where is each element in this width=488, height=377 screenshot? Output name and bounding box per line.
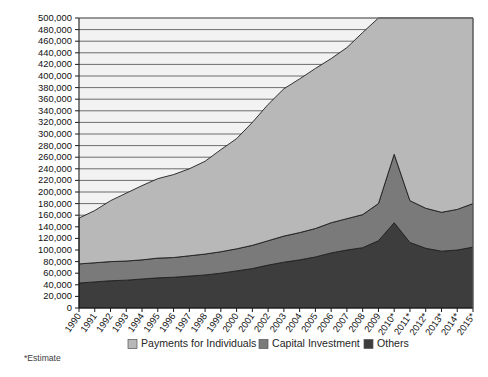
legend-swatch-icon <box>128 340 137 349</box>
legend-label: Others <box>377 337 409 349</box>
legend-item-capital-investment[interactable]: Capital Investment <box>259 337 360 349</box>
x-axis-tick-label: 2008 <box>346 311 367 334</box>
y-axis-ticks <box>75 18 79 308</box>
y-axis-tick-label: 260,000 <box>38 151 72 162</box>
y-axis-tick-label: 160,000 <box>38 209 72 220</box>
y-axis-tick-label: 480,000 <box>38 24 72 35</box>
x-axis-tick-label: 1995 <box>141 311 162 334</box>
x-axis-ticks <box>79 308 473 312</box>
x-axis-tick-label: 2000 <box>220 311 241 334</box>
legend-item-others[interactable]: Others <box>364 337 409 349</box>
x-axis-tick-label: 1999 <box>204 311 225 334</box>
x-axis-tick-label: 2001 <box>236 311 257 334</box>
y-axis-tick-label: 500,000 <box>38 12 72 23</box>
y-axis-tick-label: 140,000 <box>38 221 72 232</box>
x-axis-tick-label: 1992 <box>94 311 115 334</box>
x-axis-tick-label: 1998 <box>188 311 209 334</box>
y-axis-tick-label: 300,000 <box>38 128 72 139</box>
legend-label: Payments for Individuals <box>141 337 256 349</box>
y-axis-tick-label: 440,000 <box>38 47 72 58</box>
y-axis-tick-label: 80,000 <box>43 256 72 267</box>
x-axis-tick-label: 2004 <box>283 311 304 334</box>
y-axis-tick-label: 420,000 <box>38 58 72 69</box>
x-axis-tick-label: 1994 <box>125 311 146 334</box>
x-axis-tick-label: 2006 <box>314 311 335 334</box>
x-axis-tick-label: 1990 <box>62 311 83 334</box>
x-axis-tick-label: 1997 <box>172 311 193 334</box>
y-axis-tick-label: 340,000 <box>38 105 72 116</box>
x-axis-tick-label: 1996 <box>157 311 178 334</box>
y-axis-tick-label: 400,000 <box>38 70 72 81</box>
footnote: *Estimate <box>24 353 61 363</box>
y-axis-tick-label: 60,000 <box>43 267 72 278</box>
y-axis-tick-label: 200,000 <box>38 186 72 197</box>
y-axis-tick-label: 380,000 <box>38 82 72 93</box>
legend-item-payments-for-individuals[interactable]: Payments for Individuals <box>128 337 256 349</box>
y-axis-labels: 020,00040,00060,00080,000100,000120,0001… <box>38 12 72 313</box>
y-axis-tick-label: 220,000 <box>38 174 72 185</box>
x-axis-tick-label: 2002 <box>251 311 272 334</box>
y-axis-tick-label: 240,000 <box>38 163 72 174</box>
y-axis-tick-label: 460,000 <box>38 35 72 46</box>
y-axis-tick-label: 40,000 <box>43 279 72 290</box>
chart-canvas: 020,00040,00060,00080,000100,000120,0001… <box>0 0 488 377</box>
y-axis-tick-label: 20,000 <box>43 290 72 301</box>
y-axis-tick-label: 0 <box>67 302 72 313</box>
y-axis-tick-label: 100,000 <box>38 244 72 255</box>
legend-swatch-icon <box>259 340 268 349</box>
legend-label: Capital Investment <box>272 337 360 349</box>
x-axis-tick-label: 1993 <box>109 311 130 334</box>
y-axis-tick-label: 320,000 <box>38 116 72 127</box>
y-axis-tick-label: 180,000 <box>38 198 72 209</box>
legend-swatch-icon <box>364 340 373 349</box>
x-axis-tick-label: 2003 <box>267 311 288 334</box>
x-axis-labels: 1990199119921993199419951996199719981999… <box>62 311 477 338</box>
x-axis-tick-label: 1991 <box>78 311 99 334</box>
y-axis-tick-label: 280,000 <box>38 140 72 151</box>
y-axis-tick-label: 360,000 <box>38 93 72 104</box>
x-axis-tick-label: 2007 <box>330 311 351 334</box>
stacked-area-chart: 020,00040,00060,00080,000100,000120,0001… <box>0 0 488 377</box>
y-axis-tick-label: 120,000 <box>38 232 72 243</box>
chart-legend: Payments for IndividualsCapital Investme… <box>128 337 409 349</box>
x-axis-tick-label: 2005 <box>299 311 320 334</box>
